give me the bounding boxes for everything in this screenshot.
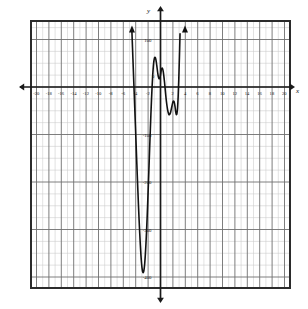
x-tick-label: 10 [220, 91, 225, 96]
y-tick-label: -200 [143, 180, 152, 185]
y-tick-label: 100 [144, 38, 152, 43]
x-tick-label: 14 [245, 91, 250, 96]
plot-area: -20-18-16-14-12-10-8-6-4-224681012141618… [0, 0, 308, 309]
x-tick-label: 18 [270, 91, 275, 96]
figure-root: b. -20-18-16-14-12-10-8-6-4-224681012141… [0, 0, 308, 309]
canvas-background [0, 0, 308, 309]
x-tick-label: -18 [46, 91, 53, 96]
x-tick-label: -12 [83, 91, 90, 96]
x-tick-label: 20 [282, 91, 287, 96]
x-tick-label: -16 [58, 91, 65, 96]
x-tick-label: 16 [257, 91, 262, 96]
x-tick-label: -10 [95, 91, 102, 96]
x-tick-label: 12 [232, 91, 237, 96]
y-tick-label: -400 [143, 275, 152, 280]
coordinate-plane: -20-18-16-14-12-10-8-6-4-224681012141618… [0, 0, 308, 309]
x-tick-label: -14 [70, 91, 77, 96]
x-tick-label: -20 [33, 91, 40, 96]
